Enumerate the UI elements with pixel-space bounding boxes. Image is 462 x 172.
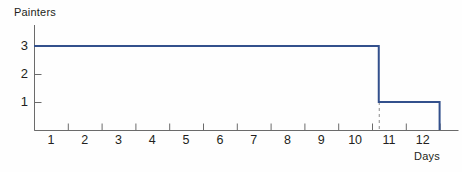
series-line — [34, 46, 440, 130]
step-chart: Painters Days 123 123456789101112 — [0, 0, 462, 172]
data-series — [34, 46, 440, 130]
axes — [35, 25, 459, 131]
plot-area — [0, 0, 462, 172]
